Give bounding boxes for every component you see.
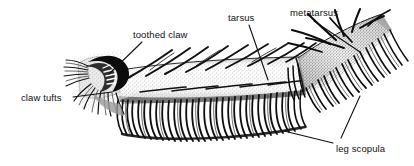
label-claw-tufts: claw tufts [21, 93, 62, 103]
label-leg-scopula: leg scopula [336, 144, 385, 154]
figure-spider-leg: claw tufts toothed claw tarsus metatarsu… [0, 0, 414, 166]
label-toothed-claw: toothed claw [133, 30, 188, 40]
spider-leg-illustration [0, 0, 414, 166]
label-tarsus: tarsus [228, 13, 254, 23]
label-metatarsus: metatarsus [290, 8, 338, 18]
